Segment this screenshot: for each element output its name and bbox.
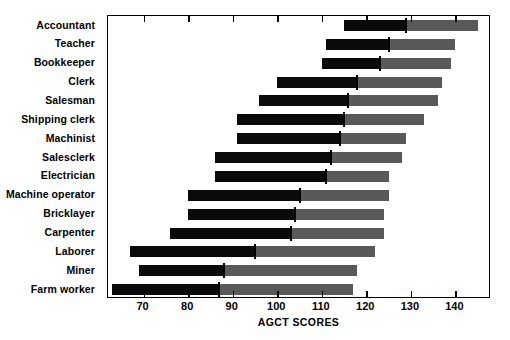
bar-segment-high (295, 209, 384, 220)
category-label: Machine operator (0, 189, 95, 199)
bar-row (108, 95, 491, 106)
bar-row (108, 133, 491, 144)
bar-segment-high (300, 190, 389, 201)
category-label: Clerk (0, 76, 95, 86)
bar-segment-low (322, 58, 380, 69)
x-axis-tick-bottom (411, 291, 413, 297)
x-axis-tick-bottom (366, 291, 368, 297)
category-label: Bookkeeper (0, 57, 95, 67)
bar-segment-high (326, 171, 388, 182)
x-axis-tick-bottom (233, 291, 235, 297)
x-axis-tick-label: 70 (123, 300, 163, 312)
median-marker (294, 207, 296, 222)
x-axis-tick-label: 80 (167, 300, 207, 312)
plot-area (107, 15, 490, 298)
bar-segment-high (291, 228, 385, 239)
bar-segment-low (237, 114, 344, 125)
bar-segment-low (170, 228, 290, 239)
bars-layer (108, 16, 489, 297)
bar-segment-low (344, 20, 406, 31)
x-axis-tick-top (277, 16, 279, 22)
bar-segment-high (340, 133, 407, 144)
bar-segment-low (215, 171, 326, 182)
median-marker (325, 169, 327, 184)
x-axis-tick-top (233, 16, 235, 22)
bar-segment-high (344, 114, 424, 125)
median-marker (356, 75, 358, 90)
bar-row (108, 209, 491, 220)
agct-scores-chart: AccountantTeacherBookkeeperClerkSalesman… (0, 0, 510, 340)
bar-segment-high (389, 39, 456, 50)
bar-segment-high (219, 284, 353, 295)
category-label: Shipping clerk (0, 114, 95, 124)
bar-row (108, 77, 491, 88)
bar-segment-low (237, 133, 339, 144)
median-marker (405, 18, 407, 33)
bar-segment-low (139, 265, 224, 276)
bar-segment-low (130, 246, 255, 257)
category-label: Farm worker (0, 284, 95, 294)
median-marker (218, 282, 220, 297)
bar-segment-high (406, 20, 477, 31)
median-marker (388, 37, 390, 52)
category-label: Machinist (0, 133, 95, 143)
median-marker (290, 226, 292, 241)
x-axis-tick-labels: 708090100110120130140 (107, 300, 490, 316)
bar-row (108, 171, 491, 182)
category-label: Bricklayer (0, 208, 95, 218)
bar-segment-low (326, 39, 388, 50)
median-marker (254, 244, 256, 259)
bar-row (108, 228, 491, 239)
x-axis-tick-label: 140 (434, 300, 474, 312)
x-axis-tick-bottom (188, 291, 190, 297)
x-axis-tick-bottom (277, 291, 279, 297)
x-axis-tick-label: 130 (390, 300, 430, 312)
bar-segment-high (224, 265, 358, 276)
category-label: Laborer (0, 246, 95, 256)
bar-row (108, 246, 491, 257)
bar-row (108, 152, 491, 163)
category-label: Miner (0, 265, 95, 275)
x-axis-tick-bottom (455, 291, 457, 297)
bar-segment-low (188, 190, 299, 201)
x-axis-tick-top (144, 16, 146, 22)
category-axis-labels: AccountantTeacherBookkeeperClerkSalesman… (0, 15, 101, 298)
median-marker (379, 56, 381, 71)
median-marker (330, 150, 332, 165)
x-axis-tick-bottom (144, 291, 146, 297)
median-marker (347, 93, 349, 108)
x-axis-tick-top (322, 16, 324, 22)
category-label: Teacher (0, 38, 95, 48)
bar-row (108, 284, 491, 295)
category-label: Accountant (0, 20, 95, 30)
median-marker (339, 131, 341, 146)
bar-segment-low (277, 77, 357, 88)
x-axis-tick-label: 120 (345, 300, 385, 312)
category-label: Carpenter (0, 227, 95, 237)
median-marker (343, 112, 345, 127)
x-axis-tick-label: 100 (256, 300, 296, 312)
bar-row (108, 190, 491, 201)
bar-segment-high (255, 246, 375, 257)
x-axis-title: AGCT SCORES (107, 316, 490, 328)
bar-segment-high (380, 58, 451, 69)
bar-segment-low (112, 284, 219, 295)
bar-segment-high (357, 77, 442, 88)
bar-segment-low (188, 209, 295, 220)
bar-row (108, 58, 491, 69)
category-label: Electrician (0, 170, 95, 180)
bar-segment-high (331, 152, 402, 163)
median-marker (223, 263, 225, 278)
bar-segment-low (215, 152, 331, 163)
bar-segment-high (348, 95, 437, 106)
bar-segment-low (259, 95, 348, 106)
x-axis-tick-top (188, 16, 190, 22)
bar-row (108, 265, 491, 276)
bar-row (108, 114, 491, 125)
x-axis-tick-top (366, 16, 368, 22)
x-axis-tick-top (411, 16, 413, 22)
bar-row (108, 39, 491, 50)
category-label: Salesman (0, 95, 95, 105)
median-marker (299, 188, 301, 203)
x-axis-tick-label: 110 (301, 300, 341, 312)
